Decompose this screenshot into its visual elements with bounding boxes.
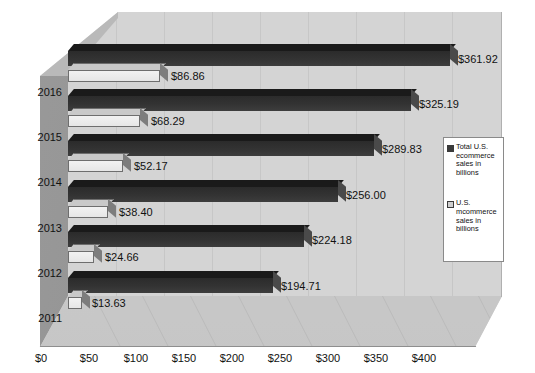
bar-mobile-2013 <box>68 206 108 218</box>
bar-mobile-2011 <box>68 297 82 309</box>
x-axis-tick-150: $150 <box>161 352 207 364</box>
bar-end-cap <box>273 271 281 293</box>
x-axis-tick-400: $400 <box>401 352 447 364</box>
bar-end-cap <box>450 44 458 66</box>
x-axis-tick-50: $50 <box>66 352 112 364</box>
bar-top-face <box>68 108 146 115</box>
bar-label-mobile-2013: $38.40 <box>119 206 153 218</box>
bar-label-mobile-2011: $13.63 <box>92 297 126 309</box>
bar-label-total-2014: $289.83 <box>382 143 422 155</box>
bar-label-mobile-2014: $52.17 <box>134 160 168 172</box>
bar-total-2011 <box>68 278 273 293</box>
bar-label-total-2011: $194.71 <box>281 280 321 292</box>
bar-label-mobile-2016: $86.86 <box>171 70 205 82</box>
bar-end-cap <box>411 89 419 111</box>
legend-label-mobile: U.S. mcommerce sales in billions <box>456 199 500 233</box>
bar-mobile-2015 <box>68 115 140 127</box>
bar-front-face <box>68 160 123 172</box>
x-axis-tick-100: $100 <box>113 352 159 364</box>
x-axis-tick-250: $250 <box>257 352 303 364</box>
bar-front-face <box>68 251 94 263</box>
bar-front-face <box>68 278 273 293</box>
bar-top-face <box>68 63 166 70</box>
bar-front-face <box>68 206 108 218</box>
bar-top-face <box>68 89 417 96</box>
legend-item-mcommerce: U.S. mcommerce sales in billions <box>447 199 500 233</box>
ecommerce-sales-3d-bar-chart: 2016 2015 2014 2013 2012 2011 $361.92 $8… <box>0 0 535 373</box>
x-axis-tick-300: $300 <box>305 352 351 364</box>
bar-total-2012 <box>68 232 304 247</box>
bar-end-cap <box>374 134 382 156</box>
legend-swatch-icon-total <box>447 145 454 152</box>
bar-top-face <box>68 44 456 51</box>
bar-label-total-2015: $325.19 <box>419 98 459 110</box>
chart-legend: Total U.S. ecommerce sales in billions U… <box>443 137 504 262</box>
bar-front-face <box>68 232 304 247</box>
bar-top-face <box>68 180 344 187</box>
bar-label-total-2012: $224.18 <box>312 234 352 246</box>
x-axis-tick-200: $200 <box>209 352 255 364</box>
x-axis-tick-350: $350 <box>353 352 399 364</box>
bar-mobile-2016 <box>68 70 160 82</box>
bar-front-face <box>68 70 160 82</box>
bar-top-face <box>68 134 380 141</box>
bar-top-face <box>68 199 114 206</box>
bar-label-total-2016: $361.92 <box>458 53 498 65</box>
bar-top-face <box>68 153 129 160</box>
bar-front-face <box>68 297 82 309</box>
bar-front-face <box>68 115 140 127</box>
legend-item-total-ecommerce: Total U.S. ecommerce sales in billions <box>447 143 500 177</box>
bar-top-face <box>68 225 310 232</box>
bar-mobile-2012 <box>68 251 94 263</box>
bar-label-mobile-2015: $68.29 <box>151 115 185 127</box>
bar-end-cap <box>338 180 346 202</box>
bar-label-total-2013: $256.00 <box>346 189 386 201</box>
x-axis-tick-0: $0 <box>18 352 64 364</box>
bar-mobile-2014 <box>68 160 123 172</box>
bar-end-cap <box>304 225 312 247</box>
legend-swatch-icon-mobile <box>447 201 454 208</box>
bar-label-mobile-2012: $24.66 <box>105 251 139 263</box>
bar-top-face <box>68 271 279 278</box>
legend-label-total: Total U.S. ecommerce sales in billions <box>456 143 500 177</box>
